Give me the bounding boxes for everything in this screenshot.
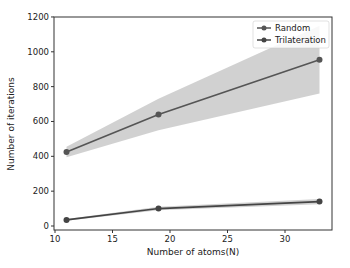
- legend: Random Trilateration: [253, 21, 329, 48]
- y-tick-label: 200: [33, 186, 49, 196]
- legend-label-random: Random: [275, 23, 310, 33]
- data-point: [317, 199, 323, 205]
- y-tick-label: 1000: [27, 47, 49, 57]
- data-point: [317, 57, 323, 63]
- data-point: [156, 206, 162, 212]
- x-tick-label: 15: [107, 234, 118, 244]
- x-tick-label: 20: [165, 234, 176, 244]
- y-tick-label: 600: [33, 116, 49, 126]
- x-axis-label: Number of atoms(N): [147, 247, 239, 257]
- x-axis: 1015202530: [50, 230, 291, 244]
- legend-label-trilateration: Trilateration: [274, 35, 326, 45]
- y-axis: 020040060080010001200: [27, 12, 54, 231]
- x-tick-label: 10: [50, 234, 61, 244]
- data-point: [64, 217, 70, 223]
- confidence-band-1: [67, 199, 320, 221]
- legend-marker-random: [262, 26, 267, 31]
- y-tick-label: 400: [33, 151, 49, 161]
- y-axis-label: Number of iterations: [6, 77, 16, 171]
- data-point: [64, 149, 70, 155]
- y-tick-label: 800: [33, 82, 49, 92]
- y-tick-label: 0: [44, 221, 49, 231]
- y-tick-label: 1200: [27, 12, 49, 22]
- line-chart: 1015202530 020040060080010001200 Number …: [0, 0, 350, 268]
- data-point: [156, 112, 162, 118]
- x-tick-label: 25: [222, 234, 233, 244]
- x-tick-label: 30: [280, 234, 291, 244]
- legend-marker-trilateration: [262, 38, 267, 43]
